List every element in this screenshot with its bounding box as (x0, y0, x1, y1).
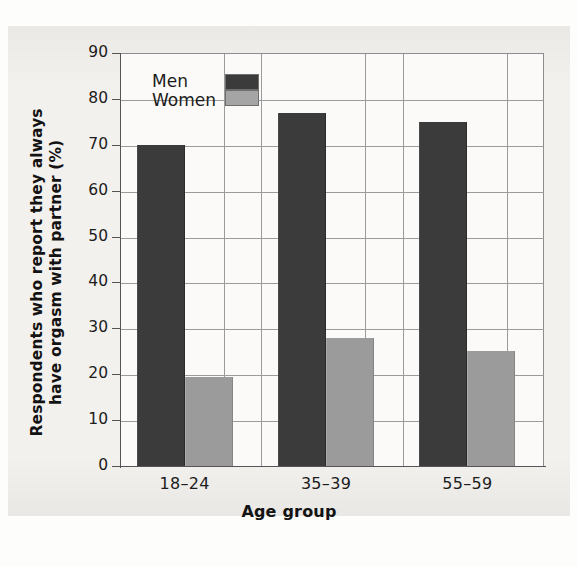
bar-men-55-59 (419, 122, 467, 466)
bar-women-35-39 (326, 338, 374, 466)
y-axis-tick-label: 20 (62, 364, 108, 382)
bar-chart: 9080706050403020100 18–2435–3955–59 Age … (0, 0, 578, 566)
x-axis-title: Age group (0, 502, 578, 521)
y-axis-title: Respondents who report they always have … (28, 72, 67, 472)
x-axis-tick-label: 55–59 (417, 474, 517, 493)
y-axis-tick-label: 80 (62, 89, 108, 107)
legend: Men Women (152, 72, 259, 110)
y-axis-tick-label: 0 (62, 456, 108, 474)
y-axis-tick-label: 70 (62, 135, 108, 153)
y-axis-tick-label: 50 (62, 227, 108, 245)
legend-swatch-women-icon (225, 90, 259, 106)
bar-men-35-39 (278, 113, 326, 466)
y-axis-tick (112, 328, 120, 329)
y-axis-title-line-1: Respondents who report they always (28, 72, 47, 472)
y-axis-tick-label: 40 (62, 272, 108, 290)
y-axis-tick (112, 282, 120, 283)
y-axis-tick (112, 53, 120, 54)
legend-swatch-men-icon (225, 74, 259, 90)
y-axis-tick (112, 466, 120, 467)
x-axis-tick-label: 35–39 (276, 474, 376, 493)
y-axis-tick (112, 420, 120, 421)
legend-labels: Men Women (152, 72, 216, 110)
legend-swatches (225, 74, 259, 106)
legend-label-men: Men (152, 72, 216, 91)
bar-women-55-59 (467, 351, 515, 466)
y-axis-tick-label: 90 (62, 43, 108, 61)
x-axis-line (112, 466, 546, 467)
y-axis-tick (112, 374, 120, 375)
y-axis-tick (112, 99, 120, 100)
x-axis-tick-label: 18–24 (135, 474, 235, 493)
y-axis-tick (112, 191, 120, 192)
bars-layer (120, 53, 544, 466)
y-axis-tick-label: 30 (62, 318, 108, 336)
bar-men-18-24 (137, 145, 185, 466)
y-axis-title-line-2: have orgasm with partner (%) (47, 72, 66, 472)
chart-page: 9080706050403020100 18–2435–3955–59 Age … (0, 0, 578, 566)
legend-label-women: Women (152, 91, 216, 110)
y-axis-tick-label: 10 (62, 410, 108, 428)
bar-women-18-24 (185, 377, 233, 466)
y-axis-tick (112, 237, 120, 238)
y-axis-tick-label: 60 (62, 181, 108, 199)
y-axis-tick (112, 145, 120, 146)
